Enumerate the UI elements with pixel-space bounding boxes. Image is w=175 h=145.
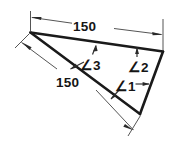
lower-dimension-label: 150 <box>56 75 79 90</box>
angle-1-arrow-right <box>143 82 150 86</box>
top-dimension-group: 150 <box>31 11 164 51</box>
top-dimension-arrow-left <box>31 17 42 20</box>
angle-2-label: ∠2 <box>128 60 149 75</box>
angle-1-label: ∠1 <box>115 79 136 94</box>
top-dimension-label: 150 <box>73 19 96 34</box>
lower-dimension-arrow-upper <box>22 42 32 50</box>
angle-2-group: ∠2 <box>128 47 149 75</box>
angle-3-label: ∠3 <box>80 58 101 73</box>
technical-drawing-canvas: 150 150 ∠3 <box>0 0 175 145</box>
angle-3-group: ∠3 <box>70 45 101 73</box>
triangle-dimension-figure: 150 150 ∠3 <box>0 0 175 145</box>
top-dimension-arrow-right <box>152 32 163 35</box>
